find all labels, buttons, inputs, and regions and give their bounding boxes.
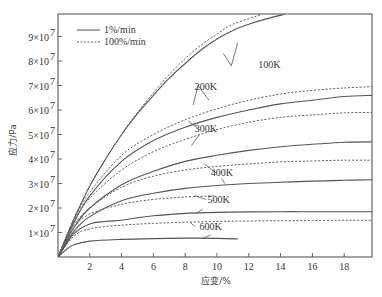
label-pointer: [190, 222, 195, 226]
label-pointer: [222, 179, 225, 184]
y-tick-exponent: 7: [50, 76, 55, 87]
curve-100k-100-min: [58, 15, 262, 258]
curve-100k-1-min: [58, 15, 284, 258]
y-tick-label: 1×10: [28, 228, 49, 239]
x-tick-label: 12: [244, 261, 254, 272]
y-tick-exponent: 7: [50, 27, 55, 38]
y-tick-label: 6×10: [28, 105, 49, 116]
y-tick-label: 8×10: [28, 56, 49, 67]
curve-300k-100-min: [58, 113, 373, 258]
y-tick-exponent: 7: [50, 149, 55, 160]
y-tick-exponent: 7: [50, 100, 55, 111]
x-tick-label: 14: [276, 261, 286, 272]
x-tick-label: 10: [212, 261, 222, 272]
x-tick-label: 16: [307, 261, 317, 272]
label-600k: 600K: [200, 221, 223, 232]
label-400k: 400K: [211, 167, 234, 178]
x-tick-label: 2: [87, 261, 92, 272]
y-tick-label: 7×10: [28, 81, 49, 92]
label-500k: 500K: [207, 194, 230, 205]
curve-500k-1-min: [58, 212, 373, 257]
y-tick-label: 3×10: [28, 179, 49, 190]
temperature-labels: 100K200K300K400K500K600K: [188, 43, 281, 239]
label-pointer: [195, 196, 206, 200]
legend-label-dashed: 100%/min: [104, 36, 146, 47]
x-tick-label: 6: [151, 261, 156, 272]
legend: 1%/min 100%/min: [77, 24, 146, 47]
curve-400k-1-min: [58, 180, 373, 257]
legend-label-solid: 1%/min: [104, 24, 136, 35]
y-tick-exponent: 7: [50, 223, 55, 234]
y-tick-exponent: 7: [50, 51, 55, 62]
y-tick-exponent: 7: [50, 198, 55, 209]
y-tick-label: 4×10: [28, 154, 49, 165]
label-100k: 100K: [258, 59, 281, 70]
y-tick-exponent: 7: [50, 174, 55, 185]
y-tick-exponent: 7: [50, 125, 55, 136]
label-200k: 200K: [195, 81, 218, 92]
x-axis-title: 应变/%: [201, 275, 231, 286]
curve-600k-1-min: [58, 238, 238, 257]
stress-strain-chart: 1×1072×1073×1074×1075×1076×1077×1078×107…: [0, 0, 382, 297]
x-axis-ticks: 24681012141618: [87, 253, 349, 272]
label-pointer: [223, 54, 231, 66]
y-tick-label: 2×10: [28, 203, 49, 214]
y-axis-title: 应力/Pa: [7, 124, 18, 156]
x-tick-label: 8: [183, 261, 188, 272]
x-tick-label: 4: [119, 261, 124, 272]
y-tick-label: 5×10: [28, 130, 49, 141]
y-tick-label: 9×10: [28, 32, 49, 43]
label-pointer: [231, 43, 237, 66]
x-tick-label: 18: [339, 261, 349, 272]
y-axis-ticks: 1×1072×1073×1074×1075×1076×1077×1078×107…: [28, 27, 62, 239]
